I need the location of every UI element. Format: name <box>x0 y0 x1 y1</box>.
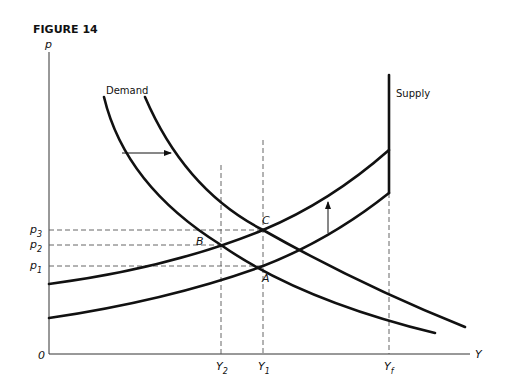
axes: p Y 0 <box>38 38 483 362</box>
supply-curve-upper <box>49 150 389 284</box>
point-c-label: C <box>262 214 270 227</box>
p3-label: p3 <box>29 223 42 239</box>
point-a-label: A <box>261 272 270 285</box>
y2-label: Y2 <box>216 360 228 376</box>
figure-title: FIGURE 14 <box>33 23 98 36</box>
y-axis-label: p <box>44 38 52 51</box>
supply-curve-lower <box>49 193 389 318</box>
y1-label: Y1 <box>258 360 270 376</box>
price-labels: p3 p2 p1 <box>29 223 42 275</box>
yf-label: Yf <box>384 360 395 376</box>
figure-14-diagram: FIGURE 14 p Y 0 Demand Supply C B A <box>0 0 513 390</box>
demand-curve-shifted <box>145 97 465 327</box>
p1-label: p1 <box>29 259 42 275</box>
supply-curves <box>49 75 389 318</box>
demand-label: Demand <box>106 85 148 96</box>
supply-label: Supply <box>396 88 430 99</box>
x-axis-label: Y <box>475 348 483 361</box>
p2-label: p2 <box>29 238 42 254</box>
origin-label: 0 <box>38 349 45 362</box>
point-b-label: B <box>196 235 204 248</box>
output-labels: Y2 Y1 Yf <box>216 360 395 376</box>
shift-arrows <box>122 153 328 233</box>
